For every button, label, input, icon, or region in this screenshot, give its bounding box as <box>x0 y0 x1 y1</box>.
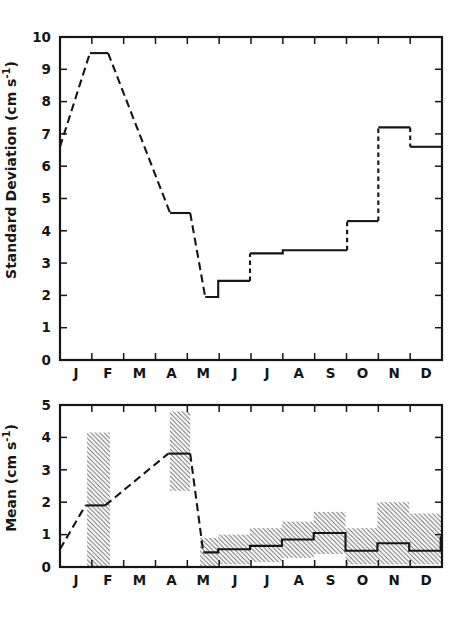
y-tick-label: 4 <box>42 223 51 239</box>
month-label: M <box>133 365 146 381</box>
month-label: M <box>197 365 210 381</box>
standard-deviation-y-axis-label: Standard Deviation (cm s-1) <box>1 61 19 279</box>
standard-deviation-panel: 012345678910JFMAMJJASONDStandard Deviati… <box>1 29 442 381</box>
month-label: M <box>133 572 146 588</box>
month-label: N <box>389 572 400 588</box>
month-label: A <box>166 572 177 588</box>
standard-deviation-line-segment-solid <box>250 250 347 253</box>
hatched-band-segment <box>87 433 110 567</box>
y-tick-label: 6 <box>42 158 51 174</box>
mean-panel: 012345JFMAMJJASONDMean (cm s-1) <box>1 397 442 588</box>
standard-deviation-axes-box <box>60 37 442 360</box>
month-label: A <box>294 365 305 381</box>
y-tick-label: 5 <box>42 190 51 206</box>
monthly-current-statistics-figure: 012345678910JFMAMJJASONDStandard Deviati… <box>0 0 467 620</box>
y-tick-label: 7 <box>42 126 51 142</box>
y-tick-label: 2 <box>42 287 51 303</box>
standard-deviation-line-segment-solid <box>205 281 250 297</box>
month-label: S <box>326 365 336 381</box>
standard-deviation-line-segment-dashed <box>108 53 170 213</box>
y-tick-label: 10 <box>32 29 51 45</box>
y-tick-label: 9 <box>42 61 51 77</box>
mean-y-axis-label: Mean (cm s-1) <box>1 424 19 532</box>
standard-deviation-line <box>60 53 442 297</box>
month-label: D <box>420 572 431 588</box>
month-label: F <box>103 365 112 381</box>
y-tick-label: 5 <box>42 397 51 413</box>
month-label: J <box>263 365 269 381</box>
y-tick-label: 8 <box>42 93 51 109</box>
figure-page: 012345678910JFMAMJJASONDStandard Deviati… <box>0 0 467 620</box>
may-dec-band-uncertainty-band <box>200 502 442 567</box>
month-label: F <box>103 572 112 588</box>
month-label: A <box>294 572 305 588</box>
y-tick-label: 1 <box>42 526 51 542</box>
hatched-band-segment <box>170 411 190 490</box>
month-label: J <box>232 572 238 588</box>
month-label: M <box>197 572 210 588</box>
apr-band-uncertainty-band <box>170 411 190 490</box>
month-label: S <box>326 572 336 588</box>
y-tick-label: 0 <box>42 559 51 575</box>
y-tick-label: 0 <box>42 352 51 368</box>
mean-line-segment-dashed <box>105 454 168 506</box>
month-label: J <box>232 365 238 381</box>
month-label: O <box>357 365 368 381</box>
month-label: A <box>166 365 177 381</box>
feb-band-uncertainty-band <box>87 433 110 567</box>
month-label: J <box>263 572 269 588</box>
y-tick-label: 2 <box>42 494 51 510</box>
month-label: N <box>389 365 400 381</box>
month-label: J <box>72 572 78 588</box>
hatched-band-segment <box>409 514 442 565</box>
month-label: O <box>357 572 368 588</box>
mean-line-segment-dashed <box>190 454 203 553</box>
month-label: D <box>420 365 431 381</box>
month-label: J <box>72 365 78 381</box>
standard-deviation-line-segment-dashed <box>190 213 205 297</box>
mean-line-segment-dashed <box>60 505 86 549</box>
hatched-band-segment <box>377 502 409 564</box>
y-tick-label: 1 <box>42 319 51 335</box>
y-tick-label: 3 <box>42 462 51 478</box>
standard-deviation-axis-ticks <box>60 37 442 360</box>
y-tick-label: 4 <box>42 429 51 445</box>
standard-deviation-line-segment-dashed <box>60 53 90 147</box>
y-tick-label: 3 <box>42 255 51 271</box>
hatched-band-segment <box>346 528 378 564</box>
